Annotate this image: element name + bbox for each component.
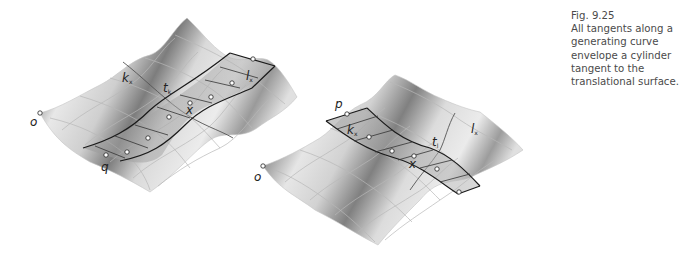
point-p xyxy=(345,112,349,116)
figure-caption: Fig. 9.25 All tangents along a generatin… xyxy=(571,9,681,88)
point-q xyxy=(104,153,108,157)
label-o-right: o xyxy=(254,170,261,184)
label-x-right: x xyxy=(408,157,417,171)
right-translational-surface: o p kx tl x lx xyxy=(254,75,523,245)
figure-number: Fig. 9.25 xyxy=(571,9,681,22)
caption-text: All tangents along a generating curve en… xyxy=(571,22,681,88)
left-translational-surface: o q kx tk x lx xyxy=(30,18,297,192)
label-x-left: x xyxy=(185,103,194,117)
label-p: p xyxy=(334,97,343,111)
label-q: q xyxy=(101,160,109,174)
point-o-right xyxy=(261,164,265,168)
label-o-left: o xyxy=(30,115,37,129)
point-o-left xyxy=(38,111,42,115)
